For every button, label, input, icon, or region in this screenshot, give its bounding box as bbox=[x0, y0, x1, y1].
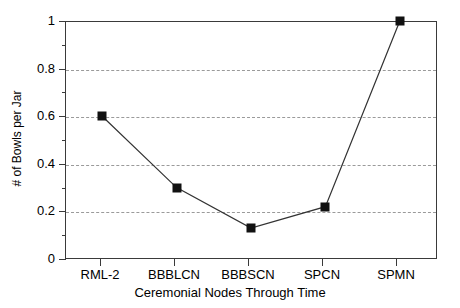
gridline-0.4 bbox=[66, 165, 436, 166]
gridline-0.2 bbox=[66, 212, 436, 213]
y-tick-label-0.2: 0.2 bbox=[37, 204, 55, 217]
y-tick-label-0.6: 0.6 bbox=[37, 109, 55, 122]
data-point-bbbscn bbox=[247, 224, 256, 233]
gridline-0.8 bbox=[66, 70, 436, 71]
y-tick-1 bbox=[59, 21, 66, 22]
y-minor-tick-0.1 bbox=[62, 235, 66, 236]
gridline-0.6 bbox=[66, 117, 436, 118]
data-point-spcn bbox=[321, 202, 330, 211]
y-minor-tick-0.7 bbox=[62, 92, 66, 93]
y-minor-tick-0.3 bbox=[62, 188, 66, 189]
x-tick-label-bbblcn: BBBLCN bbox=[148, 268, 200, 282]
y-tick-0.8 bbox=[59, 69, 66, 70]
data-point-spmn bbox=[395, 17, 404, 26]
x-tick-bbblcn bbox=[174, 259, 175, 266]
y-tick-0 bbox=[59, 259, 66, 260]
x-tick-label-rml-2: RML-2 bbox=[80, 268, 119, 282]
x-tick-bbbscn bbox=[248, 259, 249, 266]
x-tick-label-bbbscn: BBBSCN bbox=[221, 268, 274, 282]
x-tick-label-spcn: SPCN bbox=[304, 268, 340, 282]
y-tick-label-0.8: 0.8 bbox=[37, 62, 55, 75]
y-tick-label-0: 0 bbox=[48, 252, 55, 265]
x-axis-title: Ceremonial Nodes Through Time bbox=[0, 286, 460, 300]
y-minor-tick-0.5 bbox=[62, 140, 66, 141]
x-tick-label-spmn: SPMN bbox=[377, 268, 415, 282]
x-tick-rml-2 bbox=[100, 259, 101, 266]
x-tick-spmn bbox=[396, 259, 397, 266]
y-tick-label-0.4: 0.4 bbox=[37, 157, 55, 170]
chart-container: 1 0.8 0.6 0.4 0.2 0 RML-2 BBBLCN BBBSCN … bbox=[0, 0, 460, 308]
y-axis-title: # of Bowls per Jar bbox=[11, 59, 24, 219]
data-point-rml-2 bbox=[98, 112, 107, 121]
x-tick-spcn bbox=[322, 259, 323, 266]
y-minor-tick-0.9 bbox=[62, 45, 66, 46]
y-tick-0.2 bbox=[59, 211, 66, 212]
data-point-bbblcn bbox=[172, 183, 181, 192]
y-tick-0.6 bbox=[59, 116, 66, 117]
y-tick-label-1: 1 bbox=[48, 14, 55, 27]
y-tick-0.4 bbox=[59, 164, 66, 165]
